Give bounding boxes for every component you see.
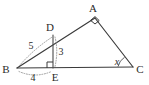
measure-label-be: 4 bbox=[31, 72, 36, 83]
figure-canvas: A B C D E 5 3 4 x bbox=[0, 0, 149, 85]
vertex-label-e: E bbox=[52, 71, 59, 83]
vertex-label-b: B bbox=[2, 63, 9, 75]
vertex-label-c: C bbox=[136, 63, 143, 75]
measure-arc-bd bbox=[20, 38, 52, 66]
vertex-label-a: A bbox=[89, 2, 97, 14]
measure-label-de: 3 bbox=[59, 46, 64, 57]
vertex-label-d: D bbox=[46, 21, 54, 33]
measure-label-bd: 5 bbox=[29, 40, 34, 51]
angle-label-x: x bbox=[114, 56, 120, 67]
right-angle-marker-e bbox=[47, 62, 53, 68]
segment-bc bbox=[17, 67, 133, 68]
measure-arc-de bbox=[55, 37, 57, 67]
geometry-diagram: A B C D E 5 3 4 x bbox=[0, 0, 149, 85]
